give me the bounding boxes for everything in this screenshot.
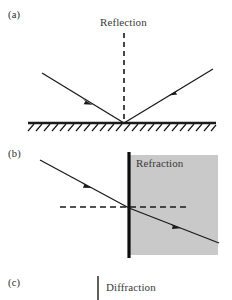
panel-label-c: (c) [8, 277, 20, 288]
diffraction-label: Diffraction [106, 281, 156, 293]
reflection-label: Reflection [100, 16, 147, 28]
incident-ray-arrowhead-a [83, 99, 93, 105]
figure-canvas [0, 0, 232, 300]
medium-block-b [130, 155, 218, 255]
incident-ray-a [42, 73, 124, 123]
panel-b-group [40, 152, 219, 258]
panel-label-b: (b) [8, 148, 21, 159]
panel-a-group [28, 33, 216, 131]
panel-label-a: (a) [8, 9, 20, 20]
surface-hatching-a [28, 124, 216, 131]
optics-figure: (a) Reflection (b) Refraction (c) Diffra… [0, 0, 232, 300]
refraction-label: Refraction [136, 157, 183, 169]
incident-ray-b [40, 160, 129, 208]
reflected-ray-a [124, 69, 213, 123]
